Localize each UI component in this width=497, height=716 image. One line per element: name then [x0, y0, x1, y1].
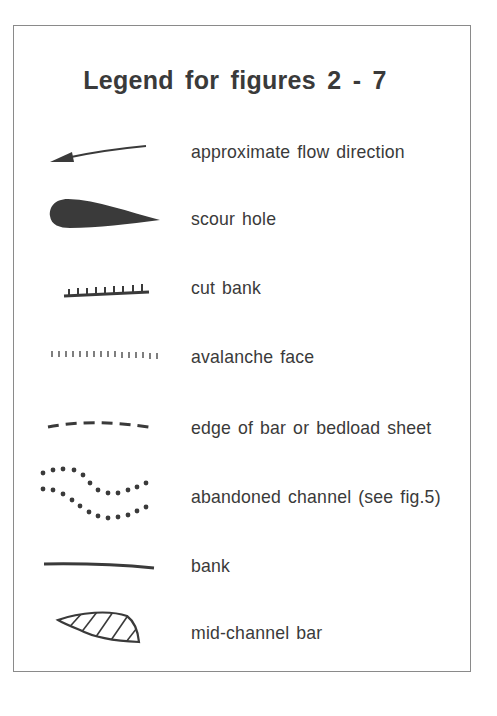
legend-label-abandoned-channel: abandoned channel (see fig.5) — [191, 486, 441, 508]
legend-label-mid-channel-bar: mid-channel bar — [191, 622, 322, 644]
teardrop-filled-icon — [48, 198, 163, 232]
solid-line-icon — [42, 560, 157, 572]
legend-title: Legend for figures 2 - 7 — [0, 66, 470, 95]
legend-label-bank: bank — [191, 555, 230, 577]
legend-label-scour-hole: scour hole — [191, 208, 276, 230]
arrow-icon — [48, 140, 152, 164]
dashed-line-icon — [45, 414, 160, 434]
ticked-line-icon — [62, 280, 152, 300]
legend-label-cut-bank: cut bank — [191, 277, 261, 299]
legend-label-avalanche-face: avalanche face — [191, 346, 314, 368]
legend-label-edge-of-bar: edge of bar or bedload sheet — [191, 417, 431, 439]
legend-label-flow-direction: approximate flow direction — [191, 141, 405, 163]
hatched-lens-icon — [55, 610, 145, 648]
tick-row-icon — [50, 348, 165, 362]
dotted-wavy-lines-icon — [38, 462, 158, 522]
